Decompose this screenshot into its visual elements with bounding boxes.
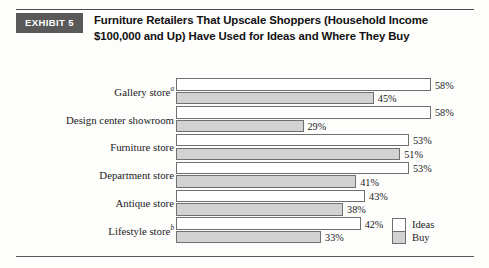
- top-divider-rule: [16, 9, 474, 10]
- exhibit-title: Furniture Retailers That Upscale Shopper…: [83, 12, 476, 44]
- legend-item-ideas: Ideas: [392, 218, 472, 231]
- category-bar-group: 58%29%: [176, 106, 476, 134]
- category-label: Design center showroom: [66, 114, 174, 126]
- bar-ideas: [176, 106, 431, 118]
- bar-track-ideas: 58%: [176, 78, 476, 90]
- chart-category-row: Department store53%41%: [16, 161, 476, 189]
- category-footnote-marker: b: [170, 224, 174, 232]
- category-label: Furniture store: [110, 141, 174, 153]
- exhibit-figure: EXHIBIT 5 Furniture Retailers That Upsca…: [0, 0, 489, 268]
- bar-value-label: 42%: [361, 218, 384, 229]
- category-bar-group: 58%45%: [176, 78, 476, 106]
- legend-label-ideas: Ideas: [406, 219, 434, 230]
- bar-buy: [176, 92, 374, 104]
- bar-ideas: [176, 134, 409, 146]
- bar-value-label: 58%: [431, 107, 454, 118]
- chart-category-row: Gallery storea58%45%: [16, 78, 476, 106]
- exhibit-title-line-2: $100,000 and Up) Have Used for Ideas and…: [94, 28, 476, 44]
- bar-buy: [176, 120, 304, 132]
- bar-value-label: 38%: [343, 204, 366, 215]
- category-bar-group: 53%41%: [176, 161, 476, 189]
- chart-category-row: Design center showroom58%29%: [16, 106, 476, 134]
- legend-swatch-buy-icon: [392, 231, 406, 244]
- bar-track-ideas: 43%: [176, 190, 476, 202]
- bar-value-label: 51%: [400, 148, 423, 159]
- bar-value-label: 33%: [321, 232, 344, 243]
- category-bar-group: 53%51%: [176, 134, 476, 162]
- legend-label-buy: Buy: [406, 232, 430, 243]
- bar-value-label: 45%: [374, 93, 397, 104]
- category-label: Department store: [99, 169, 174, 181]
- bar-buy: [176, 231, 321, 243]
- category-label: Antique store: [116, 197, 174, 209]
- bar-track-buy: 29%: [176, 120, 476, 132]
- bottom-divider-rule: [16, 256, 474, 257]
- bar-value-label: 58%: [431, 79, 454, 90]
- exhibit-number-badge: EXHIBIT 5: [16, 13, 83, 33]
- bar-value-label: 53%: [409, 162, 432, 173]
- chart-category-row: Antique store43%38%: [16, 189, 476, 217]
- bar-ideas: [176, 162, 409, 174]
- bar-track-buy: 38%: [176, 203, 476, 215]
- bar-buy: [176, 203, 343, 215]
- bar-value-label: 29%: [304, 120, 327, 131]
- bar-ideas: [176, 78, 431, 90]
- exhibit-header: EXHIBIT 5 Furniture Retailers That Upsca…: [16, 12, 476, 44]
- legend-item-buy: Buy: [392, 231, 472, 244]
- category-label: Gallery storea: [114, 86, 174, 98]
- bar-track-buy: 41%: [176, 175, 476, 187]
- bar-track-ideas: 58%: [176, 106, 476, 118]
- bar-track-ideas: 53%: [176, 162, 476, 174]
- bar-track-buy: 45%: [176, 92, 476, 104]
- bar-value-label: 41%: [356, 176, 379, 187]
- category-label: Lifestyle storeb: [108, 225, 174, 237]
- bar-ideas: [176, 217, 361, 229]
- chart-legend: Ideas Buy: [392, 218, 472, 244]
- bar-value-label: 43%: [365, 190, 388, 201]
- category-bar-group: 43%38%: [176, 189, 476, 217]
- bar-track-ideas: 53%: [176, 134, 476, 146]
- bar-buy: [176, 175, 356, 187]
- bar-track-buy: 51%: [176, 148, 476, 160]
- chart-category-row: Furniture store53%51%: [16, 134, 476, 162]
- bar-value-label: 53%: [409, 135, 432, 146]
- bar-ideas: [176, 190, 365, 202]
- category-footnote-marker: a: [170, 85, 174, 93]
- legend-swatch-ideas-icon: [392, 218, 406, 231]
- exhibit-title-line-1: Furniture Retailers That Upscale Shopper…: [94, 12, 476, 28]
- bar-buy: [176, 148, 400, 160]
